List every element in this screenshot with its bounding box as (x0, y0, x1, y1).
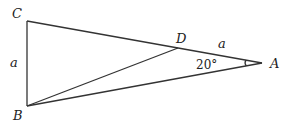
point-label-a: A (269, 56, 279, 71)
point-label-c: C (12, 6, 22, 21)
segment-ba (27, 63, 262, 106)
geometry-diagram: C B D A a a 20° (0, 0, 291, 126)
point-label-b: B (12, 108, 23, 123)
segment-ca (27, 21, 262, 63)
point-label-d: D (175, 31, 187, 46)
segment-bd (27, 48, 178, 106)
angle-arc-a (245, 60, 246, 66)
side-label-cb: a (10, 55, 18, 70)
angle-label-a: 20° (196, 58, 217, 72)
triangle-figure: C B D A a a 20° (0, 0, 291, 126)
side-label-da: a (218, 36, 226, 51)
